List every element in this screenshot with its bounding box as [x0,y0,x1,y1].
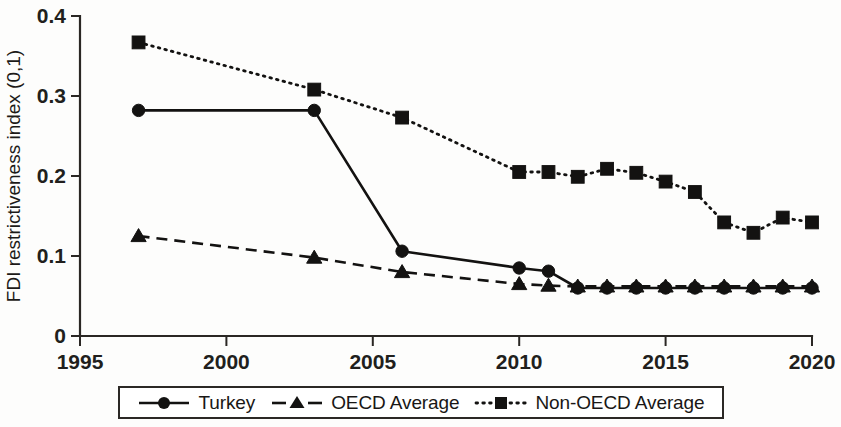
y-tick-label-2: 0.2 [37,164,66,187]
marker-circle-turkey-1997 [132,104,144,116]
x-tick-label-5: 2020 [789,350,836,373]
marker-triangle-oecd-average-1997 [131,229,146,242]
axes-layer [71,16,812,346]
series-line-turkey [139,110,812,288]
y-tick-label-1: 0.1 [37,244,67,267]
x-tick-label-1: 2000 [203,350,250,373]
marker-square-non-oecd-average-2019 [776,211,789,224]
series-line-non-oecd-average [139,42,812,232]
series-layer [131,36,820,294]
chart-canvas: 00.10.20.30.4199520002005201020152020FDI… [0,0,841,427]
marker-circle-turkey-2010 [513,262,525,274]
marker-square-non-oecd-average-2003 [308,83,321,96]
y-axis-title: FDI restrictiveness index (0,1) [3,50,24,302]
marker-square-non-oecd-average-2016 [688,186,701,199]
marker-square-non-oecd-average-2013 [601,162,614,175]
x-tick-label-4: 2015 [642,350,689,373]
x-tick-label-2: 2005 [349,350,396,373]
marker-square-non-oecd-average-2020 [806,216,819,229]
legend-label-oecd-average: OECD Average [331,392,459,414]
circle-marker-icon [137,394,191,412]
square-marker-icon [474,394,528,412]
marker-square-non-oecd-average-2006 [396,111,409,124]
y-tick-label-4: 0.4 [37,4,67,27]
marker-circle-turkey-2003 [308,104,320,116]
axis-labels-layer: 00.10.20.30.4199520002005201020152020FDI… [3,4,835,373]
marker-square-non-oecd-average-2011 [542,166,555,179]
marker-square-non-oecd-average-1997 [132,36,145,49]
legend-item-turkey[interactable]: Turkey [137,392,255,414]
series-non-oecd-average [132,36,818,239]
marker-square-non-oecd-average-2018 [747,226,760,239]
legend-item-non-oecd-average[interactable]: Non-OECD Average [474,392,704,414]
marker-square-non-oecd-average-2010 [513,166,526,179]
x-tick-label-0: 1995 [57,350,104,373]
marker-circle-turkey-2006 [396,245,408,257]
marker-square-non-oecd-average-2012 [571,170,584,183]
legend-label-non-oecd-average: Non-OECD Average [535,392,704,414]
chart-legend: Turkey OECD Average Non-OECD Average [118,386,724,419]
marker-square-non-oecd-average-2017 [718,216,731,229]
marker-square-non-oecd-average-2014 [630,166,643,179]
fdi-restrictiveness-chart-figure: 00.10.20.30.4199520002005201020152020FDI… [0,0,841,427]
y-tick-label-3: 0.3 [37,84,66,107]
y-tick-label-0: 0 [54,324,66,347]
x-tick-label-3: 2010 [496,350,543,373]
series-oecd-average [131,229,820,292]
legend-item-oecd-average[interactable]: OECD Average [270,392,459,414]
marker-square-non-oecd-average-2015 [659,175,672,188]
legend-label-turkey: Turkey [198,392,255,414]
marker-circle-turkey-2011 [542,265,554,277]
series-turkey [132,104,818,294]
triangle-marker-icon [270,394,324,412]
